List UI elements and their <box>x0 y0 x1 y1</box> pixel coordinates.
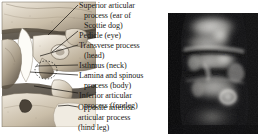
label-line-4: Pedicle (eye) <box>79 32 121 40</box>
label-line-7: Isthmus (neck) <box>79 62 127 70</box>
label-line-3: Scottie dog) <box>84 22 123 30</box>
label-line-12: Opposite inferior <box>78 104 133 112</box>
label-line-9: process (body) <box>84 82 131 90</box>
label-line-2: process (ear of <box>84 12 131 20</box>
label-line-1: Superior articular <box>79 2 135 10</box>
label-line-6: (head) <box>84 52 104 60</box>
label-block: Superior articular process (ear of Scott… <box>79 0 161 134</box>
lumbar-spine-oblique-radiograph <box>168 13 258 134</box>
label-line-13: articular process <box>78 114 130 122</box>
label-line-10: Inferior articular <box>79 92 132 100</box>
anatomy-figure: Superior articular process (ear of Scott… <box>0 0 258 134</box>
label-line-14: (hind leg) <box>78 124 109 132</box>
label-line-8: Lamina and spinous <box>79 72 143 80</box>
label-line-5: Transverse process <box>79 42 140 50</box>
